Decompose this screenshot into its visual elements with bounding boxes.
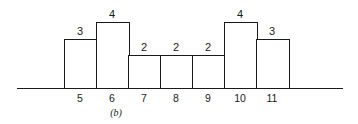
x-tick-label: 7 bbox=[128, 92, 160, 104]
x-tick-label: 5 bbox=[64, 92, 96, 104]
bar-11 bbox=[256, 39, 290, 89]
x-tick-label: 9 bbox=[192, 92, 224, 104]
x-axis-baseline bbox=[17, 88, 343, 89]
bar-value-label: 3 bbox=[64, 25, 96, 37]
histogram-chart: 3546272829410311 (b) bbox=[0, 0, 358, 124]
bar-value-label: 2 bbox=[128, 41, 160, 53]
bar-9 bbox=[192, 55, 226, 88]
bar-value-label: 2 bbox=[192, 41, 224, 53]
bar-value-label: 3 bbox=[256, 25, 288, 37]
bar-8 bbox=[160, 55, 194, 88]
bar-5 bbox=[64, 39, 98, 89]
bar-value-label: 4 bbox=[96, 8, 128, 20]
bar-value-label: 2 bbox=[160, 41, 192, 53]
x-tick-label: 8 bbox=[160, 92, 192, 104]
chart-caption: (b) bbox=[100, 107, 132, 118]
bar-value-label: 4 bbox=[224, 8, 256, 20]
bar-10 bbox=[224, 22, 258, 88]
bar-6 bbox=[96, 22, 130, 88]
x-tick-label: 11 bbox=[256, 92, 288, 104]
x-tick-label: 6 bbox=[96, 92, 128, 104]
x-tick-label: 10 bbox=[224, 92, 256, 104]
bar-7 bbox=[128, 55, 162, 88]
